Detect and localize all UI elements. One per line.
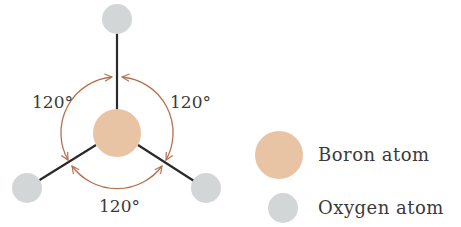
legend-oxygen-label: Oxygen atom [318, 197, 444, 218]
angle-label-upper-right: 120° [170, 92, 211, 112]
bond-bottom-left [38, 145, 96, 181]
legend-oxygen-swatch [268, 193, 298, 223]
legend-boron-swatch [255, 131, 303, 179]
oxygen-atom-top [102, 4, 132, 34]
angle-label-upper-left: 120° [32, 92, 73, 112]
legend-item-oxygen: Oxygen atom [268, 193, 444, 223]
legend-item-boron: Boron atom [255, 131, 430, 179]
arc-bottom [72, 166, 162, 189]
oxygen-atom-bottom-left [12, 173, 42, 203]
oxygen-atom-bottom-right [191, 173, 221, 203]
bond-bottom-right [138, 145, 194, 181]
boron-trigonal-diagram: 120° 120° 120° Boron atom Oxygen atom [0, 0, 461, 227]
angle-label-bottom: 120° [99, 196, 140, 216]
legend: Boron atom Oxygen atom [255, 131, 444, 223]
legend-boron-label: Boron atom [318, 144, 430, 165]
boron-atom-center [93, 109, 141, 157]
